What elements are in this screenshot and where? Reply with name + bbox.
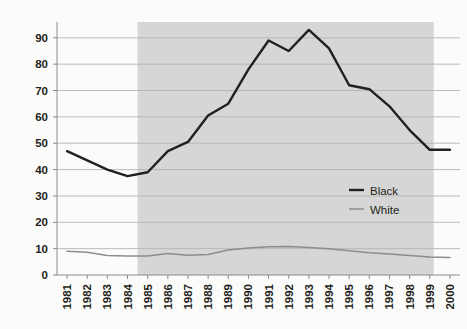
y-axis-tick-label: 60: [35, 111, 48, 123]
y-axis-tick-label: 10: [35, 243, 48, 255]
y-axis-tick-label: 0: [42, 269, 48, 281]
x-axis-tick-label: 1995: [343, 283, 355, 309]
y-axis-tick-label: 90: [35, 32, 48, 44]
y-axis-tick-label: 20: [35, 216, 48, 228]
legend-label-black: Black: [370, 185, 398, 197]
x-axis-tick-label: 1989: [222, 284, 234, 310]
x-axis-tick-label: 1999: [424, 284, 436, 310]
y-axis-tick-label: 50: [35, 137, 48, 149]
x-axis-tick-label: 1993: [303, 284, 315, 310]
x-axis-tick-label: 1985: [142, 283, 154, 309]
x-axis-tick-label: 1998: [404, 283, 416, 309]
x-axis-tick-label: 1984: [122, 283, 134, 309]
x-axis-tick-label: 2000: [444, 284, 456, 310]
x-axis-tick-label: 1982: [81, 284, 93, 310]
line-chart: 0102030405060708090 19811982198319841985…: [0, 0, 467, 329]
x-axis-tick-label: 1997: [383, 284, 395, 310]
y-axis-tick-label: 40: [35, 164, 48, 176]
x-axis-tick-label: 1981: [61, 283, 73, 309]
x-axis-tick-label: 1991: [263, 283, 275, 309]
x-axis-tick-label: 1994: [323, 283, 335, 309]
x-axis-tick-label: 1987: [182, 284, 194, 310]
shaded-period-band: [138, 22, 434, 275]
y-axis-tick-label: 80: [35, 58, 48, 70]
x-axis-tick-label: 1990: [242, 284, 254, 310]
x-axis-tick-label: 1992: [283, 284, 295, 310]
chart-canvas: 0102030405060708090 19811982198319841985…: [0, 0, 467, 329]
x-axis-tick-label: 1986: [162, 284, 174, 310]
x-axis-tick-label: 1988: [202, 283, 214, 309]
y-axis-tick-label: 30: [35, 190, 48, 202]
y-axis-tick-label: 70: [35, 85, 48, 97]
legend-label-white: White: [370, 204, 399, 216]
x-axis-tick-label: 1983: [101, 284, 113, 310]
x-axis-tick-label: 1996: [363, 284, 375, 310]
